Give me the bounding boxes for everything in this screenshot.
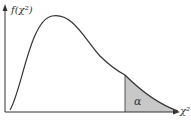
- tail-shaded-area: [125, 75, 178, 112]
- y-axis-arrow-icon: [3, 4, 8, 11]
- density-curve: [10, 16, 178, 111]
- chi-square-diagram: [0, 0, 191, 120]
- x-axis-label: χ²: [180, 106, 190, 116]
- alpha-label: α: [134, 96, 141, 107]
- y-axis-label: f(χ²): [11, 5, 33, 15]
